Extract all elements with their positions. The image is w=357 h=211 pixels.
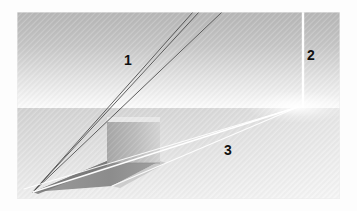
callout-label-3: 3 — [224, 143, 232, 157]
callout-label-2: 2 — [307, 48, 315, 62]
figure-root: 1 2 3 — [0, 0, 357, 211]
perspective-diagram-svg — [0, 0, 357, 211]
callout-label-1: 1 — [124, 53, 132, 67]
